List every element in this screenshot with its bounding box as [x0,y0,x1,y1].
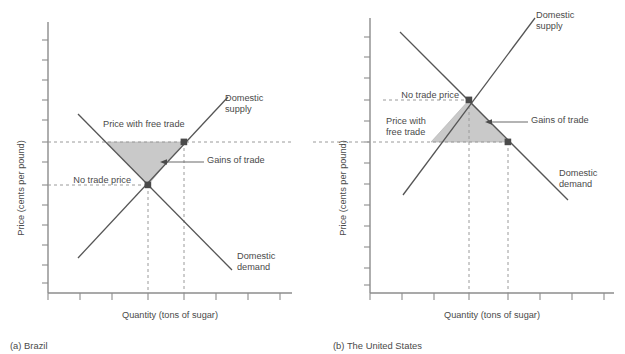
panel-a-no-trade-price-label: No trade price [73,175,131,185]
panel-b-caption: (b) The United States [333,340,422,351]
panel-b-domestic-supply-label-line2: supply [536,21,563,31]
panel-a-no-trade-equilibrium-marker [145,182,152,189]
panel-a-free-trade-quantity-marker [181,139,188,146]
panel-a-price-free-trade-label: Price with free trade [103,119,185,129]
panel-a-domestic-supply-label-line2: supply [225,104,252,114]
panel-a-x-axis-label: Quantity (tons of sugar) [122,310,218,320]
panel-b-no-trade-equilibrium-marker [466,97,473,104]
panel-b-free-trade-quantity-marker [505,139,512,146]
panel-b-price-free-trade-label-line1: Price with [386,116,426,126]
panel-b-domestic-demand-label-line1: Domestic [559,168,598,178]
panel-a-domestic-demand-label-line2: demand [237,262,270,272]
panel-b-no-trade-price-label: No trade price [401,90,459,100]
panel-b-x-axis-label: Quantity (tons of sugar) [444,310,540,320]
panel-a-y-axis-label: Price (cents per pound) [16,140,26,236]
panel-a-domestic-demand-label-line1: Domestic [237,251,276,261]
panel-b-y-axis-label: Price (cents per pound) [338,140,348,236]
panel-b-domestic-supply-label-line1: Domestic [536,10,575,20]
panel-a-gains-of-trade-label: Gains of trade [207,155,265,165]
panel-a-caption: (a) Brazil [10,340,48,351]
panel-a-domestic-supply-label-line1: Domestic [225,93,264,103]
gains-from-trade-figure: Gains of trade Price with free trade No … [0,0,625,354]
panel-b-domestic-demand-label-line2: demand [559,179,592,189]
panel-b-price-free-trade-label-line2: free trade [386,127,425,137]
panel-b-gains-of-trade-label: Gains of trade [531,115,589,125]
